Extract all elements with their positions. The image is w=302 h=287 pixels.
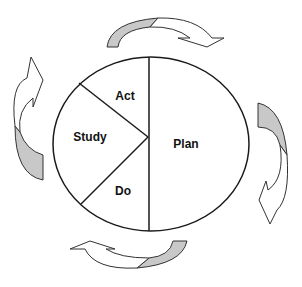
bottom-cycle-arrow-icon — [70, 241, 187, 268]
segment-label-study: Study — [73, 130, 106, 144]
pdsa-diagram — [0, 0, 302, 287]
right-cycle-arrow-icon — [258, 103, 288, 224]
segment-label-do: Do — [115, 184, 131, 198]
segment-label-plan: Plan — [173, 137, 198, 151]
segment-label-act: Act — [115, 89, 134, 103]
top-cycle-arrow-icon — [107, 18, 224, 47]
cycle-circle — [53, 57, 249, 231]
left-cycle-arrow-icon — [14, 57, 43, 180]
